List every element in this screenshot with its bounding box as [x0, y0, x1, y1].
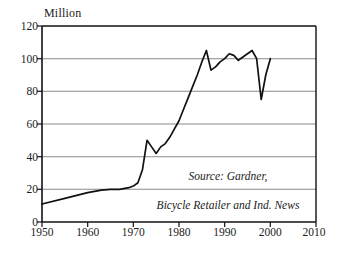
- y-tick-label: 40: [27, 151, 39, 163]
- y-axis-tick-labels: 120 100 80 60 40 20 0: [0, 0, 38, 257]
- x-tick-label: 1990: [213, 226, 236, 238]
- y-tick-label: 80: [27, 85, 39, 97]
- x-tick-label: 1980: [168, 226, 191, 238]
- source-annotation-line-2: Bicycle Retailer and Ind. News: [157, 199, 300, 211]
- y-tick-label: 100: [21, 53, 38, 65]
- source-annotation-line-1: Source: Gardner,: [189, 170, 268, 182]
- gridlines: [42, 59, 316, 190]
- x-tick-label: 2010: [303, 226, 326, 238]
- bicycle-sales-chart: 120 100 80 60 40 20 0 Million: [0, 0, 342, 257]
- plot-area: [0, 0, 342, 257]
- y-tick-label: 20: [27, 183, 39, 195]
- y-tick-label: 120: [21, 20, 38, 32]
- x-tick-label: 1960: [76, 226, 99, 238]
- y-axis-unit-label: Million: [44, 6, 81, 21]
- x-tick-label: 1970: [122, 226, 145, 238]
- x-tick-label: 1950: [31, 226, 54, 238]
- y-tick-label: 60: [27, 118, 39, 130]
- x-tick-label: 2000: [259, 226, 282, 238]
